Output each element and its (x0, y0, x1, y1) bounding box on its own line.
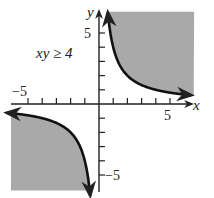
x-tick-label-neg5: −5 (12, 84, 27, 99)
x-tick-label-pos5: 5 (164, 108, 171, 123)
y-tick-label-pos5: 5 (84, 26, 91, 41)
annotation-label: xy ≥ 4 (35, 45, 73, 61)
shaded-region-q1 (108, 12, 194, 96)
y-tick-label-neg5: −5 (105, 168, 120, 183)
shaded-regions (11, 12, 194, 191)
x-axis-label: x (192, 97, 200, 113)
inequality-graph: xy ≥ 4 y x −5 5 5 −5 (0, 0, 214, 198)
y-axis-label: y (85, 4, 94, 20)
shaded-region-q3 (11, 113, 90, 190)
